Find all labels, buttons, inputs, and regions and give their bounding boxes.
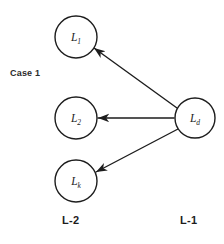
layer-label-left: L-2 — [62, 214, 79, 226]
edge-ld-to-l1 — [94, 48, 177, 108]
node-l1[interactable]: L1 — [55, 16, 97, 58]
node-subscript: 1 — [77, 37, 81, 46]
node-letter: L — [70, 31, 77, 43]
node-letter: L — [70, 112, 77, 124]
node-ld[interactable]: Ld — [175, 98, 215, 138]
node-letter: L — [70, 175, 77, 187]
diagram-svg: L1 L2 Lk Ld — [0, 0, 224, 244]
node-subscript: 2 — [77, 118, 81, 127]
node-l2[interactable]: L2 — [55, 97, 97, 139]
layer-label-right: L-1 — [180, 214, 197, 226]
node-subscript: d — [196, 118, 200, 127]
edge-group — [94, 48, 178, 172]
node-group-targets: L1 L2 Lk — [55, 16, 97, 202]
edge-ld-to-lk — [96, 129, 178, 172]
figure-canvas: L1 L2 Lk Ld Case 1 L-2 — [0, 0, 224, 244]
case-label: Case 1 — [10, 68, 40, 78]
node-lk[interactable]: Lk — [55, 160, 97, 202]
node-letter: L — [189, 112, 196, 124]
